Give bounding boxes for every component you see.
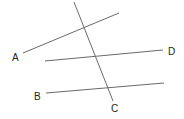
label-b: B [34, 91, 41, 102]
label-a: A [12, 52, 19, 63]
label-c: C [111, 103, 118, 114]
transversal-line [74, 2, 113, 101]
label-d: D [168, 46, 175, 57]
line-d [45, 50, 163, 61]
line-b [46, 83, 164, 93]
line-a [23, 13, 119, 53]
geometry-diagram: A D B C [0, 0, 184, 119]
